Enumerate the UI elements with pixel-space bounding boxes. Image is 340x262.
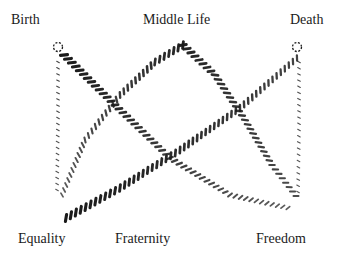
hatch-mark xyxy=(124,182,125,189)
hatch-mark xyxy=(298,129,301,130)
hatch-mark xyxy=(56,171,59,172)
life-stages-diagram xyxy=(0,0,340,262)
hatch-mark xyxy=(57,74,60,75)
hatch-mark xyxy=(57,105,60,106)
hatch-mark xyxy=(255,199,259,202)
hatch-mark xyxy=(170,153,171,159)
hatch-mark xyxy=(151,63,152,69)
hatch-mark xyxy=(159,56,160,62)
hatch-mark xyxy=(70,212,71,219)
hatch-mark xyxy=(281,205,285,208)
hatch-mark xyxy=(96,89,103,90)
hatch-mark xyxy=(298,86,301,87)
hatch-mark xyxy=(270,203,274,206)
hatch-mark xyxy=(56,147,59,148)
hatch-mark xyxy=(124,89,125,95)
hatch-mark xyxy=(128,85,129,91)
hatch-mark xyxy=(233,195,237,198)
hatch-mark xyxy=(204,67,210,68)
hatch-mark xyxy=(104,97,110,98)
hatch-mark xyxy=(175,150,176,156)
hatch-mark xyxy=(239,196,243,199)
hatch-mark xyxy=(82,143,84,147)
hatch-mark xyxy=(56,159,59,160)
hatch-mark xyxy=(75,209,76,216)
hatch-mark xyxy=(161,159,162,165)
hatch-mark xyxy=(181,166,186,168)
hatch-mark xyxy=(242,120,248,121)
hatch-mark xyxy=(78,153,80,157)
hatch-mark xyxy=(105,193,106,200)
hatch-mark xyxy=(200,63,206,64)
hatch-mark xyxy=(100,196,101,203)
hatch-mark xyxy=(196,60,202,61)
hatch-mark xyxy=(297,179,300,180)
hatch-mark xyxy=(56,183,59,184)
hatch-mark xyxy=(95,198,96,205)
hatch-mark xyxy=(95,124,96,129)
hatch-mark xyxy=(256,142,262,143)
hatch-mark xyxy=(218,188,223,190)
hatch-mark xyxy=(57,68,60,69)
line-equality-to-death xyxy=(65,55,297,221)
hatch-mark xyxy=(136,127,142,128)
hatch-mark xyxy=(297,173,300,174)
hatch-mark xyxy=(250,133,256,134)
hatch-mark xyxy=(65,183,67,187)
hatch-mark xyxy=(139,74,140,80)
hatch-mark xyxy=(264,156,269,157)
hatch-mark xyxy=(249,198,253,201)
hatch-mark xyxy=(297,148,300,149)
hatch-mark xyxy=(186,169,191,171)
hatch-mark xyxy=(73,163,75,167)
hatch-mark xyxy=(253,138,259,139)
hatch-mark xyxy=(298,142,301,143)
hatch-mark xyxy=(57,86,60,87)
hatch-mark xyxy=(205,180,210,182)
hatch-mark xyxy=(57,99,60,100)
hatch-mark xyxy=(92,85,99,86)
hatch-mark xyxy=(221,88,227,89)
hatch-mark xyxy=(159,150,165,151)
hatch-mark xyxy=(124,116,130,117)
hatch-mark xyxy=(298,123,301,124)
hatch-mark xyxy=(298,68,301,69)
hatch-mark xyxy=(164,53,165,59)
hatch-mark xyxy=(297,154,300,155)
hatch-mark xyxy=(298,136,301,137)
hatch-mark xyxy=(71,168,73,172)
hatch-mark xyxy=(147,167,148,174)
label-freedom: Freedom xyxy=(256,231,306,247)
hatch-mark xyxy=(138,173,139,180)
hatch-mark xyxy=(80,74,87,75)
hatch-mark xyxy=(298,105,301,106)
hatch-mark xyxy=(56,141,59,142)
hatch-mark xyxy=(76,158,78,162)
node-birth-circle-icon xyxy=(54,43,63,52)
hatch-mark xyxy=(228,193,232,196)
hatch-mark xyxy=(144,135,150,136)
hatch-mark xyxy=(57,123,60,124)
hatch-mark xyxy=(80,206,81,213)
hatch-mark xyxy=(57,117,60,118)
hatch-mark xyxy=(244,197,248,200)
hatch-mark xyxy=(192,56,198,57)
hatch-mark xyxy=(102,115,103,120)
hatch-mark xyxy=(173,48,174,54)
hatch-mark xyxy=(261,151,266,152)
hatch-mark xyxy=(184,48,190,49)
hatch-mark xyxy=(155,146,161,147)
hatch-mark xyxy=(63,188,65,192)
hatch-mark xyxy=(218,84,224,85)
hatch-mark xyxy=(69,173,71,177)
hatch-mark xyxy=(215,79,221,80)
hatch-mark xyxy=(286,207,289,210)
hatch-mark xyxy=(88,82,95,83)
hatch-mark xyxy=(61,55,68,56)
hatch-mark xyxy=(166,156,167,162)
hatch-mark xyxy=(177,163,182,165)
hatch-mark xyxy=(147,66,148,72)
hatch-mark xyxy=(135,77,136,83)
hatch-mark xyxy=(152,164,153,170)
hatch-mark xyxy=(85,204,86,211)
